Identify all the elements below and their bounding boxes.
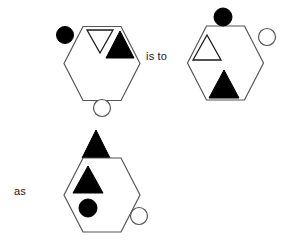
first-term-hexagon-group[interactable] — [57, 27, 141, 117]
hexagon-outline-c — [64, 158, 140, 232]
white-circle-outside-bottom — [94, 100, 111, 117]
black-circle-inside-bottom-left — [79, 199, 97, 217]
white-circle-outside-right — [259, 29, 276, 46]
black-circle-outside-top-left — [57, 27, 74, 44]
connector-label-is-to: is to — [146, 51, 167, 62]
black-circle-outside-top — [214, 8, 232, 26]
third-term-hexagon-group[interactable] — [64, 130, 148, 232]
second-term-hexagon-group[interactable] — [188, 8, 276, 100]
connector-label-as: as — [14, 186, 26, 197]
white-circle-outside-bottom-right — [131, 208, 148, 225]
analogy-diagram-canvas — [0, 0, 285, 252]
black-triangle-up-outside-top — [82, 130, 110, 158]
